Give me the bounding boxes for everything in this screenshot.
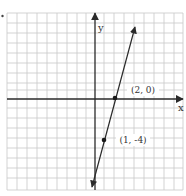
- point-label-1-neg4: (1, -4): [119, 135, 146, 145]
- y-axis-label: y: [97, 22, 104, 33]
- point-2-0: [113, 96, 118, 101]
- point-1-neg4: [102, 138, 107, 143]
- plotted-line: [92, 27, 135, 187]
- x-axis-label: x: [178, 102, 184, 113]
- coordinate-plane: (2, 0) (1, -4) y x: [0, 0, 186, 196]
- stray-dot: [1, 15, 3, 17]
- point-label-2-0: (2, 0): [131, 85, 155, 95]
